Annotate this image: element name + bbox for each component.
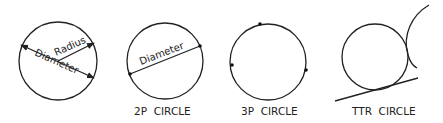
panel-ttr-circle: TTR CIRCLE xyxy=(335,5,429,117)
point-1 xyxy=(258,22,262,26)
circle-ttr xyxy=(342,24,408,90)
point-1 xyxy=(128,72,132,76)
diameter-label-2: Diameter xyxy=(138,40,186,67)
radius-label: Radius xyxy=(52,34,87,58)
circle-3p xyxy=(230,24,306,100)
caption-ttr: TTR CIRCLE xyxy=(351,105,416,117)
panel-3p-circle: 3P CIRCLE xyxy=(230,22,308,117)
panel-2p-circle: Diameter 2P CIRCLE xyxy=(127,23,203,117)
tangent-arc xyxy=(406,5,429,68)
caption-3p: 3P CIRCLE xyxy=(241,105,298,117)
tangent-line xyxy=(335,78,418,101)
point-2 xyxy=(198,44,202,48)
circle-2p xyxy=(127,23,203,99)
circle-methods-diagram: Radius Diameter Diameter 2P CIRCLE 3P CI… xyxy=(0,0,443,123)
point-3 xyxy=(304,68,308,72)
point-2 xyxy=(230,63,234,67)
panel-center-radius: Radius Diameter xyxy=(19,22,97,100)
caption-2p: 2P CIRCLE xyxy=(134,105,191,117)
